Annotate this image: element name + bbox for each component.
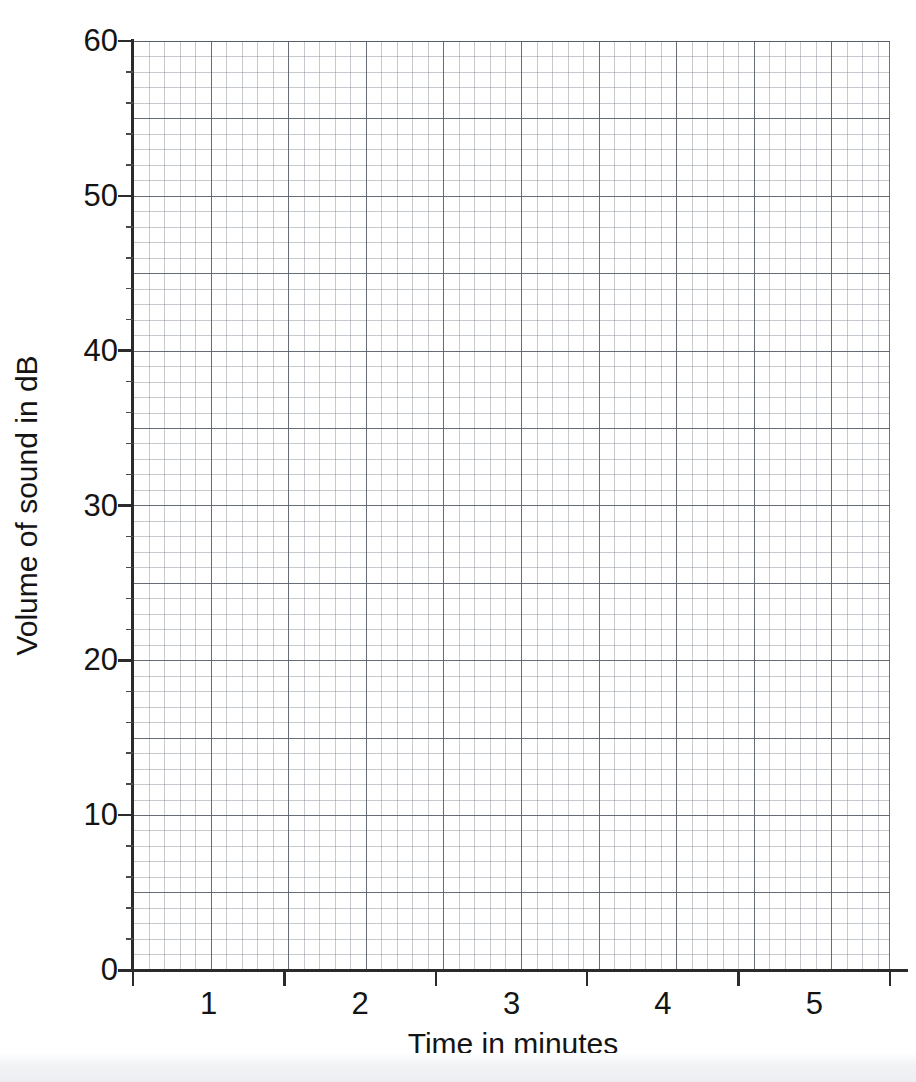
y-tick-mark [118,814,133,817]
grid-edge-top [133,41,890,42]
y-tick-mark [118,659,133,662]
x-tick-label: 3 [472,988,552,1019]
y-tick-mark [118,40,133,43]
x-tick-label: 4 [623,988,703,1019]
y-minor-tick-mark [126,598,133,600]
chart-title [0,0,916,2]
grid-minor [133,41,890,970]
y-minor-tick-mark [126,567,133,569]
y-tick-mark [118,195,133,198]
x-tick-mark [435,969,438,986]
y-tick-mark [118,969,133,972]
y-minor-tick-mark [126,722,133,724]
y-tick-mark [118,504,133,507]
chart-figure: 0102030405060 12345 Volume of sound in d… [0,0,916,1082]
y-minor-tick-mark [126,536,133,538]
y-tick-mark [118,349,133,352]
x-tick-mark [889,969,892,986]
y-minor-tick-mark [126,938,133,940]
x-tick-label: 2 [320,988,400,1019]
y-tick-label: 30 [46,490,118,521]
y-minor-tick-mark [126,845,133,847]
y-tick-label: 20 [46,644,118,675]
y-minor-tick-mark [126,226,133,228]
y-minor-tick-mark [126,783,133,785]
x-axis-line [118,969,908,972]
x-tick-label: 5 [774,988,854,1019]
y-minor-tick-mark [126,443,133,445]
y-minor-tick-mark [126,752,133,754]
y-minor-tick-mark [126,257,133,259]
y-minor-tick-mark [126,288,133,290]
x-tick-mark [283,969,286,986]
x-tick-label: 1 [169,988,249,1019]
x-tick-mark [737,969,740,986]
y-minor-tick-mark [126,381,133,383]
y-minor-tick-mark [126,102,133,104]
y-minor-tick-mark [126,474,133,476]
y-minor-tick-mark [126,629,133,631]
plot-area [133,41,890,970]
y-tick-label: 50 [46,180,118,211]
y-minor-tick-mark [126,71,133,73]
y-tick-label: 0 [46,954,118,985]
y-tick-label: 40 [46,335,118,366]
y-minor-tick-mark [126,876,133,878]
y-tick-label: 10 [46,799,118,830]
y-minor-tick-mark [126,319,133,321]
grid-edge-right [889,41,890,970]
grid-major [133,41,890,970]
y-minor-tick-mark [126,133,133,135]
y-minor-tick-mark [126,907,133,909]
x-axis-title: Time in minutes [118,1027,908,1061]
y-axis-title: Volume of sound in dB [10,41,54,970]
x-tick-mark [132,969,135,986]
y-tick-label: 60 [46,25,118,56]
y-minor-tick-mark [126,164,133,166]
x-tick-mark [586,969,589,986]
y-minor-tick-mark [126,412,133,414]
y-minor-tick-mark [126,691,133,693]
